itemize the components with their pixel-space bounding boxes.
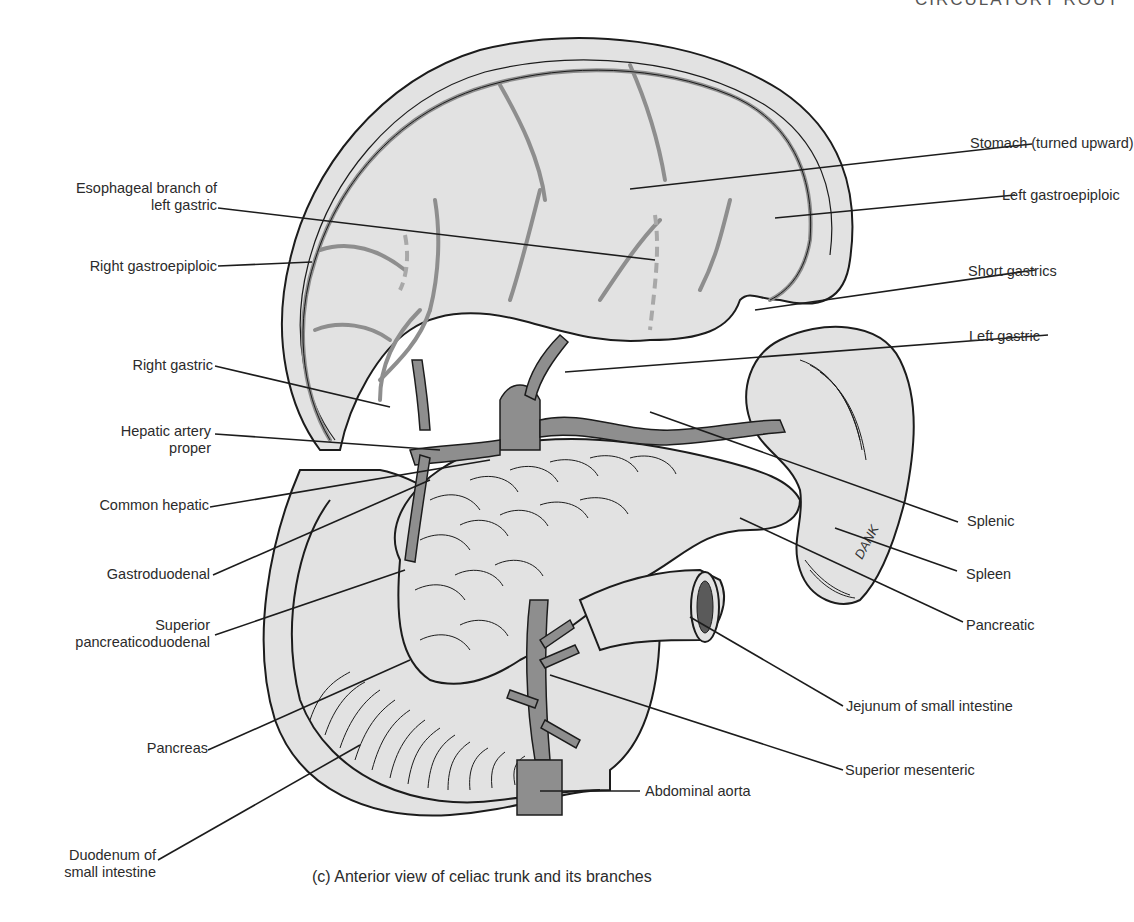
label-right-gastroepiploic: Right gastroepiploic bbox=[90, 258, 217, 275]
label-splenic: Splenic bbox=[967, 513, 1015, 530]
label-esophageal-branch: Esophageal branch of left gastric bbox=[76, 180, 217, 214]
label-hepatic-artery-proper: Hepatic artery proper bbox=[121, 423, 211, 457]
label-pancreatic: Pancreatic bbox=[966, 617, 1035, 634]
label-right-gastric: Right gastric bbox=[132, 357, 213, 374]
label-superior-mesenteric: Superior mesenteric bbox=[845, 762, 975, 779]
label-pancreas: Pancreas bbox=[147, 740, 208, 757]
label-jejunum: Jejunum of small intestine bbox=[846, 698, 1013, 715]
label-gastroduodenal: Gastroduodenal bbox=[107, 566, 210, 583]
spleen-shape bbox=[746, 327, 914, 604]
label-superior-pancreaticoduodenal: Superior pancreaticoduodenal bbox=[75, 617, 210, 651]
label-common-hepatic: Common hepatic bbox=[99, 497, 209, 514]
label-abdominal-aorta: Abdominal aorta bbox=[645, 783, 751, 800]
label-duodenum: Duodenum of small intestine bbox=[64, 847, 156, 881]
figure-caption: (c) Anterior view of celiac trunk and it… bbox=[312, 868, 652, 886]
label-short-gastrics: Short gastrics bbox=[968, 263, 1057, 280]
right-gastric-vessel bbox=[412, 360, 430, 430]
label-left-gastric: Left gastric bbox=[969, 328, 1040, 345]
label-spleen: Spleen bbox=[966, 566, 1011, 583]
label-left-gastroepiploic: Left gastroepiploic bbox=[1002, 187, 1120, 204]
label-stomach: Stomach (turned upward) bbox=[970, 135, 1134, 152]
abdominal-aorta-vessel bbox=[517, 760, 562, 815]
left-gastric-vessel bbox=[525, 335, 568, 400]
